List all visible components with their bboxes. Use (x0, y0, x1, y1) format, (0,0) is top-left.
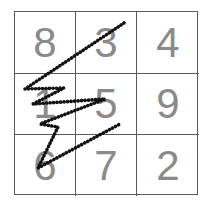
grid-cell-r3c1[interactable]: 6 (15, 135, 76, 196)
grid-cell-r1c2[interactable]: 3 (76, 12, 137, 74)
grid-cell-r2c3[interactable]: 9 (137, 74, 199, 135)
grid-cell-r1c1[interactable]: 8 (15, 12, 76, 74)
grid-cell-r2c1[interactable]: 1 (15, 74, 76, 135)
number-grid: 8 3 4 1 5 9 6 7 2 (14, 11, 198, 195)
grid-cell-r3c3[interactable]: 2 (137, 135, 199, 196)
grid-cell-r1c3[interactable]: 4 (137, 12, 199, 74)
grid-cell-r2c2[interactable]: 5 (76, 74, 137, 135)
grid-cell-r3c2[interactable]: 7 (76, 135, 137, 196)
